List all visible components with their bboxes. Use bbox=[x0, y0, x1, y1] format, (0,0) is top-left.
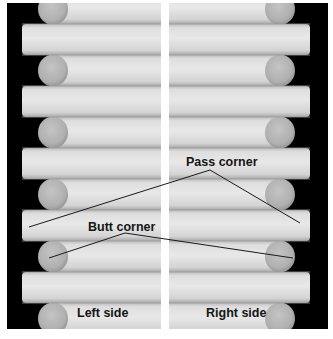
left-panel bbox=[7, 0, 173, 335]
butt-corner-label: Butt corner bbox=[88, 221, 155, 234]
right-side-label: Right side bbox=[206, 307, 266, 320]
log-wall-illustration bbox=[0, 0, 333, 339]
left-side-label: Left side bbox=[77, 307, 128, 320]
center-divider bbox=[161, 0, 169, 339]
pass-corner-label: Pass corner bbox=[186, 156, 258, 169]
log-corner-diagram: Pass corner Butt corner Left side Right … bbox=[0, 0, 333, 339]
